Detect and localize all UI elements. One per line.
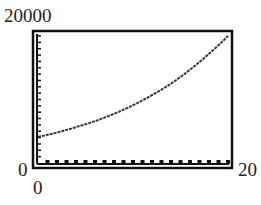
x-tick bbox=[198, 160, 202, 164]
x-tick bbox=[93, 160, 97, 164]
x-tick bbox=[179, 160, 183, 164]
x-tick bbox=[55, 160, 59, 164]
axes bbox=[37, 34, 229, 164]
x-tick bbox=[112, 160, 116, 164]
x-tick bbox=[207, 160, 211, 164]
x-tick bbox=[169, 160, 173, 164]
x-tick bbox=[131, 160, 135, 164]
chart-frame bbox=[33, 31, 232, 168]
x-tick bbox=[226, 160, 230, 164]
data-line bbox=[38, 36, 228, 137]
x-tick bbox=[65, 160, 69, 164]
x-tick bbox=[84, 160, 88, 164]
x-tick bbox=[160, 160, 164, 164]
x-tick bbox=[141, 160, 145, 164]
chart-plot-area bbox=[0, 0, 261, 205]
x-tick bbox=[103, 160, 107, 164]
x-tick bbox=[217, 160, 221, 164]
axis-ticks bbox=[38, 36, 230, 164]
x-tick bbox=[122, 160, 126, 164]
x-tick bbox=[188, 160, 192, 164]
x-tick bbox=[74, 160, 78, 164]
x-tick bbox=[46, 160, 50, 164]
x-tick bbox=[150, 160, 154, 164]
